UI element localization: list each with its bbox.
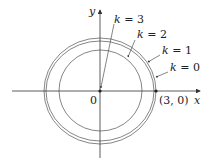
- origin-point: [98, 89, 101, 92]
- label-k2: k = 2: [137, 28, 167, 41]
- pointer-k0: [156, 72, 168, 77]
- point-label: (3, 0): [159, 94, 189, 107]
- label-k0: k = 0: [170, 61, 200, 74]
- label-k3: k = 3: [114, 13, 144, 26]
- y-axis-label: y: [88, 5, 96, 18]
- level-curves-diagram: y x 0 (3, 0) k = 3 k = 2 k = 1 k = 0: [0, 0, 212, 164]
- label-k1: k = 1: [162, 44, 192, 57]
- pointer-k1: [148, 55, 160, 62]
- x-axis-label: x: [194, 94, 201, 107]
- pointer-k3: [101, 24, 114, 88]
- origin-label: 0: [90, 94, 97, 107]
- point-3-0: [154, 89, 157, 92]
